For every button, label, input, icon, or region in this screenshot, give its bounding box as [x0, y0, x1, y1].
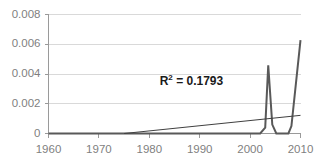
r-squared-annotation: R2 = 0.1793 — [160, 75, 224, 87]
chart-container: 00.0020.0040.0060.008 196019701980199020… — [0, 0, 318, 167]
y-tick-label: 0.006 — [0, 38, 41, 50]
y-axis-ticks — [45, 15, 49, 134]
y-tick-label: 0.004 — [0, 68, 41, 80]
y-tick-label: 0.002 — [0, 98, 41, 110]
x-tick-label: 2010 — [271, 144, 319, 156]
y-tick-label: 0 — [0, 128, 41, 140]
y-tick-label: 0.008 — [0, 9, 41, 21]
